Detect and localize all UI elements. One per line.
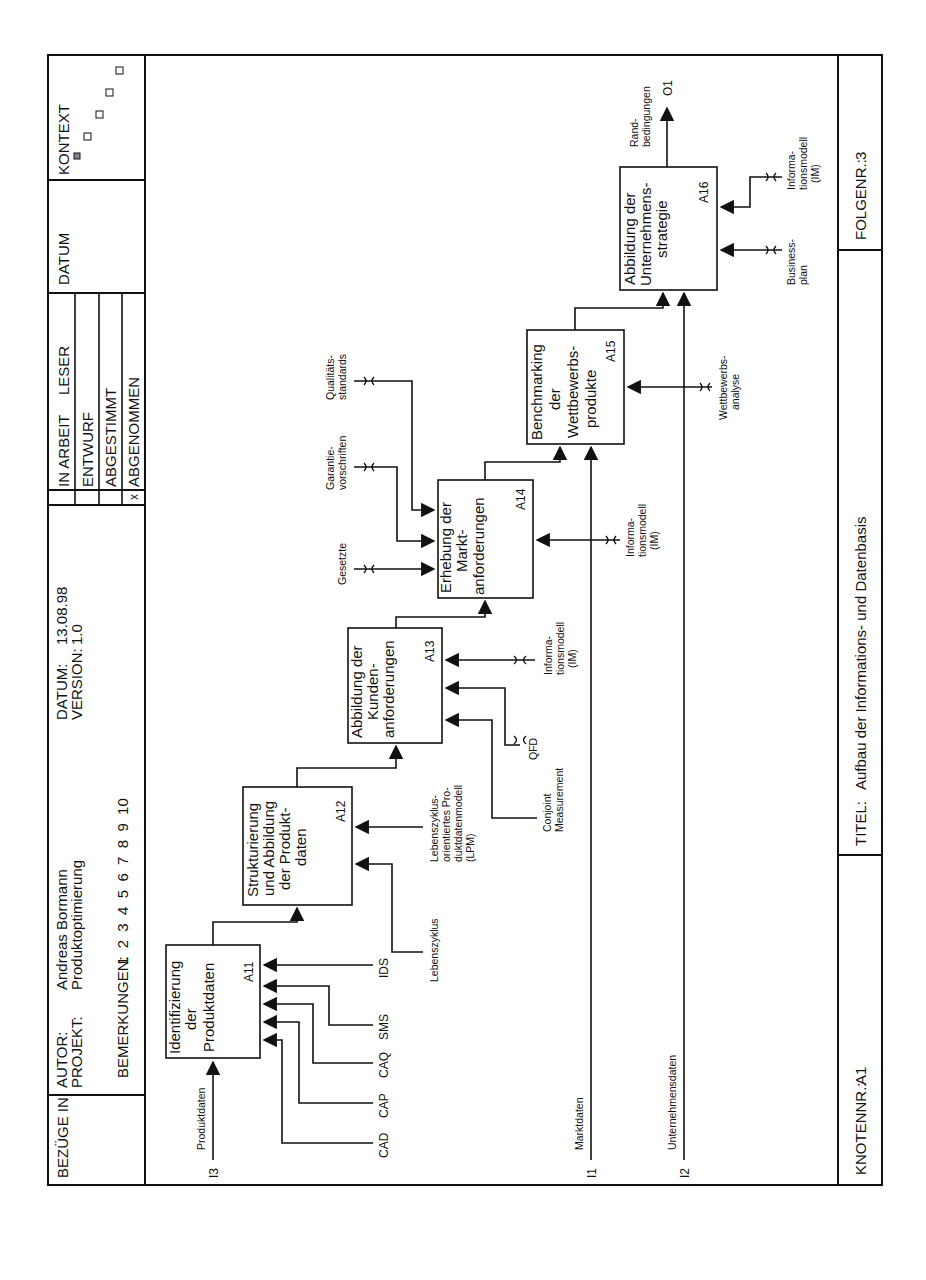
box-id-a16: A16: [697, 181, 711, 203]
projekt-value: Produktoptimierung: [68, 860, 85, 990]
svg-text:Marktdaten: Marktdaten: [573, 1097, 585, 1150]
bezuege-in-label: BEZÜGE IN:: [54, 1093, 71, 1178]
svg-text:Markt-: Markt-: [453, 530, 470, 573]
mech-qfd: QFD: [527, 737, 539, 760]
status-abgenommen: ABGENOMMEN: [125, 377, 142, 487]
status-abgenommen-checkmark[interactable]: x: [127, 494, 141, 500]
svg-text:Measurement: Measurement: [553, 768, 565, 832]
kontext-node-icon: [96, 111, 103, 118]
status-entwurf: ENTWURF: [79, 412, 96, 487]
box-id-a13: A13: [423, 640, 437, 662]
activity-box-a12[interactable]: Strukturierung und Abbildung der Produkt…: [243, 787, 352, 905]
datum-col-label: DATUM: [55, 233, 72, 285]
kontext-node-icon: [106, 89, 113, 96]
box-id-a14: A14: [514, 488, 528, 510]
header-bezuege: BEZÜGE IN:: [54, 1093, 71, 1178]
svg-text:Unternehmens-: Unternehmens-: [637, 183, 654, 286]
svg-text:Unternehmensdaten: Unternehmensdaten: [666, 1055, 678, 1150]
activity-box-a16[interactable]: Abbildung der Unternehmens- strategie A1…: [620, 167, 717, 290]
svg-text:(IM): (IM): [566, 649, 578, 668]
box-id-a12: A12: [334, 800, 348, 822]
svg-text:I1: I1: [585, 1168, 599, 1178]
activity-box-a14[interactable]: Erhebung der Markt- anforderungen A14: [437, 480, 533, 598]
titel-value: Aufbau der Informations- und Datenbasis: [852, 517, 869, 791]
a12-mechanisms: Lebenszyklus Lebenszyklus- orientiertes …: [356, 785, 476, 982]
svg-text:I2: I2: [678, 1168, 692, 1178]
svg-text:vorschriften: vorschriften: [336, 436, 348, 490]
svg-text:der Produkt-: der Produkt-: [276, 807, 293, 890]
activity-box-a11[interactable]: Identifizierung der Produktdaten A11: [166, 945, 260, 1058]
svg-text:tionsmodell: tionsmodell: [797, 137, 809, 190]
output-o1: Rand- bedingungen O1: [628, 80, 675, 147]
knotennr-label: KNOTENNR.:: [852, 1082, 869, 1175]
a13-mechanisms: Conjoint Measurement QFD Informa- tionsm…: [446, 622, 578, 832]
svg-text:Abbildung der: Abbildung der: [621, 192, 638, 285]
svg-text:der: der: [182, 1008, 199, 1030]
svg-text:Lebenszyklus-: Lebenszyklus-: [428, 794, 440, 862]
svg-text:tionsmodell: tionsmodell: [636, 504, 648, 557]
svg-text:(LPM): (LPM): [464, 833, 476, 862]
kontext-label: KONTEXT: [55, 104, 72, 175]
titel-label: TITEL:: [852, 801, 869, 846]
svg-text:Abbildung der: Abbildung der: [348, 645, 365, 738]
svg-text:orientiertes Pro-: orientiertes Pro-: [440, 787, 452, 862]
activity-box-a15[interactable]: Benchmarking der Wettbewerbs- produkte A…: [527, 330, 624, 444]
svg-text:Rand-: Rand-: [628, 118, 640, 147]
svg-text:(IM): (IM): [809, 164, 821, 183]
status-abgestimmt: ABGESTIMMT: [102, 388, 119, 487]
svg-text:anforderungen: anforderungen: [380, 640, 397, 738]
svg-text:daten: daten: [292, 828, 309, 866]
leser-label: LESER: [55, 346, 72, 395]
control-gesetzte: Gesetzte: [336, 543, 348, 585]
box-id-a11: A11: [242, 961, 256, 982]
svg-text:Strukturierung: Strukturierung: [244, 803, 261, 897]
svg-text:Informa-: Informa-: [624, 517, 636, 557]
svg-text:Kunden-: Kunden-: [364, 663, 381, 720]
svg-text:anforderungen: anforderungen: [470, 497, 487, 595]
mech-cap: CAP: [377, 1093, 391, 1118]
mech-lebenszyklus: Lebenszyklus: [428, 918, 440, 982]
projekt-label: PROJEKT:: [68, 1016, 85, 1088]
knotennr-value: A1: [852, 1067, 869, 1085]
svg-text:analyse: analyse: [729, 374, 741, 410]
status-in-arbeit: IN ARBEIT: [55, 414, 72, 487]
svg-text:der: der: [546, 388, 563, 410]
output-code: O1: [661, 80, 675, 96]
bemerkungen-numbers: 1 2 3 4 5 6 7 8 9 10: [114, 798, 131, 965]
svg-text:standards: standards: [336, 354, 348, 400]
svg-text:Qualitäts-: Qualitäts-: [324, 355, 336, 400]
activity-box-a13[interactable]: Abbildung der Kunden- anforderungen A13: [348, 628, 442, 743]
mech-caq: CAQ: [377, 1052, 391, 1078]
svg-text:(IM): (IM): [648, 531, 660, 550]
folgenr-value: 3: [852, 152, 869, 160]
svg-text:produkte: produkte: [582, 370, 599, 428]
svg-text:Conjoint: Conjoint: [541, 793, 553, 832]
svg-text:Informa-: Informa-: [542, 635, 554, 675]
bemerkungen-label: BEMERKUNGEN:: [114, 956, 131, 1078]
svg-text:duktdatenmodell: duktdatenmodell: [452, 785, 464, 862]
svg-text:Erhebung der: Erhebung der: [437, 502, 454, 593]
mech-sms: SMS: [377, 1014, 391, 1040]
svg-text:Benchmarking: Benchmarking: [528, 344, 545, 440]
kontext-node-icon: [84, 133, 91, 140]
box-id-a15: A15: [604, 340, 618, 362]
tunnel-icon: [514, 736, 526, 744]
svg-text:Wettbewerbs-: Wettbewerbs-: [564, 346, 581, 438]
svg-text:Identifizierung: Identifizierung: [166, 961, 183, 1054]
mech-cad: CAD: [377, 1132, 391, 1158]
svg-text:Produktdaten: Produktdaten: [200, 963, 217, 1052]
mech-ids: IDS: [377, 958, 391, 978]
svg-text:bedingungen: bedingungen: [640, 86, 652, 147]
a11-mechanisms: CAD CAP CAQ SMS IDS: [264, 958, 391, 1158]
version-label: VERSION:: [68, 648, 85, 720]
svg-text:plan: plan: [797, 265, 809, 285]
footer: KNOTENNR.: A1 TITEL: Aufbau der Informat…: [852, 152, 869, 1175]
header-author-block: AUTOR: PROJEKT: Andreas Bormann Produkto…: [53, 587, 131, 1088]
kontext-node-icon: [116, 67, 123, 74]
input-i3: I3 Produktdaten: [195, 1062, 221, 1178]
svg-text:Informa-: Informa-: [785, 150, 797, 190]
svg-text:Produktdaten: Produktdaten: [195, 1087, 207, 1150]
version-value: 1.0: [68, 624, 85, 645]
input-i1: I1 Marktdaten: [573, 447, 599, 1178]
svg-text:strategie: strategie: [653, 200, 670, 258]
